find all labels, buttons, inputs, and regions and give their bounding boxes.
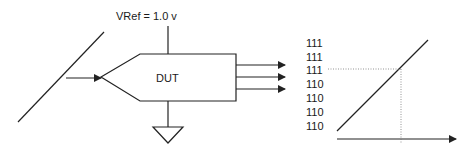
code-label: 111 — [306, 52, 323, 63]
input-ramp-line — [18, 32, 104, 122]
code-label: 111 — [306, 38, 323, 49]
adc-test-diagram — [0, 0, 471, 153]
code-label: 110 — [306, 107, 324, 118]
code-label: 110 — [306, 79, 324, 90]
code-label: 110 — [306, 93, 324, 104]
ground-icon — [153, 127, 183, 143]
code-label: 110 — [306, 121, 324, 132]
code-label: 111 — [306, 65, 323, 76]
dut-label: DUT — [156, 73, 179, 84]
transfer-line — [337, 40, 428, 131]
vref-label: VRef = 1.0 v — [116, 11, 177, 22]
